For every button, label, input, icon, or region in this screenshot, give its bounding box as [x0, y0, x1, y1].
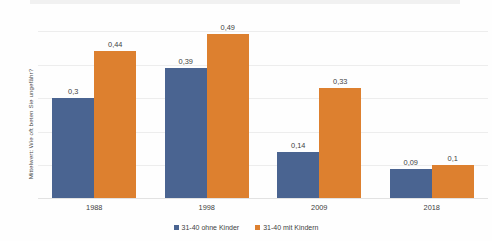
bar[interactable]: 0,3: [52, 98, 94, 199]
plot-area: 0,30,440,390,490,140,330,090,1: [38, 31, 488, 199]
bar[interactable]: 0,44: [94, 51, 136, 199]
scan-artifact-band: [30, 0, 460, 4]
bar-group: 0,140,33: [277, 31, 361, 199]
chart-legend: 31-40 ohne Kinder31-40 mit Kindern: [0, 224, 492, 231]
bar-group: 0,090,1: [390, 31, 474, 199]
legend-label: 31-40 mit Kindern: [263, 224, 318, 231]
bar[interactable]: 0,33: [319, 88, 361, 199]
bar[interactable]: 0,09: [390, 169, 432, 199]
bar-value-label: 0,09: [404, 158, 418, 167]
x-axis-tick-label: 2009: [263, 203, 376, 212]
bar-chart: Mittelwert: Wie oft beten Sie ungefähr? …: [0, 0, 492, 241]
legend-color-swatch: [255, 225, 260, 230]
bar[interactable]: 0,49: [207, 34, 249, 199]
legend-color-swatch: [174, 225, 179, 230]
legend-label: 31-40 ohne Kinder: [182, 224, 240, 231]
bar-value-label: 0,49: [221, 23, 235, 32]
legend-item[interactable]: 31-40 ohne Kinder: [174, 224, 240, 231]
y-axis-title: Mittelwert: Wie oft beten Sie ungefähr?: [27, 69, 34, 180]
bar-group: 0,390,49: [165, 31, 249, 199]
bar[interactable]: 0,1: [432, 165, 474, 199]
bar-group: 0,30,44: [52, 31, 136, 199]
x-axis-baseline: [38, 198, 488, 199]
bar-value-label: 0,44: [108, 40, 122, 49]
x-axis-tick-label: 2018: [376, 203, 489, 212]
bar-value-label: 0,1: [448, 154, 458, 163]
x-axis-tick-label: 1998: [151, 203, 264, 212]
legend-item[interactable]: 31-40 mit Kindern: [255, 224, 318, 231]
bar[interactable]: 0,14: [277, 152, 319, 199]
bar-value-label: 0,3: [68, 87, 78, 96]
bar-value-label: 0,39: [179, 57, 193, 66]
y-axis-title-container: Mittelwert: Wie oft beten Sie ungefähr?: [22, 48, 38, 200]
x-axis-tick-label: 1988: [38, 203, 151, 212]
bar[interactable]: 0,39: [165, 68, 207, 199]
bar-value-label: 0,33: [333, 77, 347, 86]
bar-value-label: 0,14: [291, 141, 305, 150]
